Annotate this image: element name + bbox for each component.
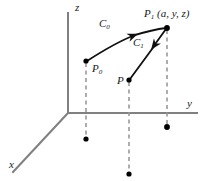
- figure-canvas: z y x P0 P P1 (a, y, z) C0 C1: [0, 0, 209, 181]
- axis-x-line: [13, 113, 68, 172]
- point-label-p1-base: P: [144, 7, 151, 19]
- point-p1-projection: [164, 124, 170, 130]
- point-p0-projection: [83, 136, 88, 141]
- axis-label-y-text: y: [187, 97, 192, 109]
- point-label-p1-coordinates: (a, y, z): [154, 7, 189, 19]
- curve-c1-path-tail: [130, 45, 155, 79]
- point-label-p0-base: P: [92, 62, 99, 74]
- point-label-p: P: [117, 75, 124, 86]
- axis-label-z-text: z: [75, 1, 79, 13]
- projection-lines-group: [86, 30, 167, 172]
- curve-label-c0: C0: [99, 18, 110, 31]
- point-p: [126, 77, 131, 82]
- point-p-projection: [126, 171, 131, 176]
- curve-label-c1-subscript: 1: [140, 42, 144, 50]
- axis-label-z: z: [75, 2, 79, 13]
- point-p0: [83, 58, 88, 63]
- curve-label-c1: C1: [133, 37, 144, 50]
- point-label-p1: P1 (a, y, z): [144, 8, 189, 21]
- axes-group: [13, 13, 197, 172]
- points-group: [83, 25, 170, 176]
- axis-label-y: y: [187, 98, 192, 109]
- point-label-p0-subscript: 0: [99, 68, 103, 76]
- point-p1: [164, 25, 170, 31]
- curve-label-c0-subscript: 0: [106, 23, 110, 31]
- axis-label-x: x: [9, 159, 14, 170]
- point-label-p-base: P: [117, 74, 124, 86]
- point-label-p0: P0: [92, 63, 102, 76]
- curve-c0-path: [87, 35, 135, 61]
- axis-label-x-text: x: [9, 158, 14, 170]
